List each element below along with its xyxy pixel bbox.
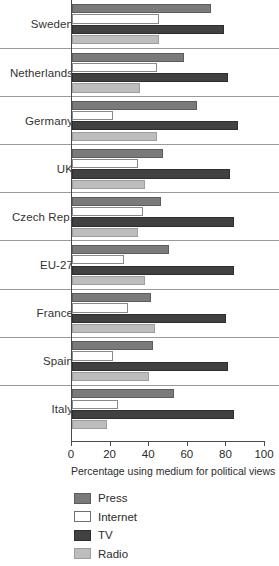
category-label: Spain [43,355,73,367]
bar-group [72,3,275,45]
bar-press [72,341,153,350]
x-tick-label: 40 [142,448,155,460]
bar-group [72,52,275,93]
bar-press [72,4,211,13]
legend-item[interactable]: Radio [74,545,264,564]
bar-internet [72,111,113,120]
bar-radio [72,372,149,381]
bar-press [72,197,161,206]
x-tick [71,441,72,446]
legend-swatch-icon [74,548,91,559]
bar-group [72,100,275,141]
bar-group [72,148,275,189]
bar-press [72,389,174,398]
category-label: Netherlands [10,67,73,79]
legend-item[interactable]: Internet [74,508,264,527]
bar-radio [72,132,157,141]
category-label: EU-27 [40,259,73,271]
bar-internet [72,351,113,360]
bar-group [72,244,275,285]
bar-tv [72,121,238,130]
bar-tv [72,25,224,34]
legend-label: Internet [98,511,137,523]
legend-item[interactable]: TV [74,526,264,545]
plot-area: SwedenNetherlandsGermanyUKCzech Rep.EU-2… [0,0,279,441]
bar-internet [72,303,128,312]
bar-press [72,101,197,110]
x-tick-label: 60 [180,448,193,460]
bar-group [72,293,275,334]
bar-press [72,293,151,302]
bar-press [72,245,169,254]
y-axis-line [71,0,72,441]
chart-group-row: EU-27 [0,240,279,288]
bar-tv [72,266,234,275]
bar-group [72,196,275,237]
chart-group-row: France [0,289,279,337]
chart-group-row: Italy [0,385,279,433]
x-tick [148,441,149,446]
category-label: France [37,307,73,319]
bar-tv [72,410,234,419]
bar-group [72,389,275,430]
bar-tv [72,362,228,371]
x-tick [225,441,226,446]
bar-internet [72,255,124,264]
bar-radio [72,420,107,429]
x-tick [264,441,265,446]
bar-internet [72,400,118,409]
legend-swatch-icon [74,530,91,541]
x-tick [187,441,188,446]
bar-group [72,341,275,382]
x-axis-title: Percentage using medium for political vi… [71,465,264,477]
legend-label: Press [98,492,127,504]
bar-internet [72,14,159,23]
bar-radio [72,83,140,92]
bar-radio [72,276,145,285]
chart-group-row: Czech Rep. [0,192,279,240]
chart-group-row: Germany [0,96,279,144]
chart-group-row: Netherlands [0,48,279,96]
category-label: Czech Rep. [12,211,73,223]
chart-group-row: Spain [0,337,279,385]
legend-swatch-icon [74,493,91,504]
legend-item[interactable]: Press [74,489,264,508]
chart-group-row: Sweden [0,0,279,48]
x-axis: 020406080100 Percentage using medium for… [0,441,279,481]
bar-radio [72,324,155,333]
category-label: Germany [25,115,73,127]
chart-legend: PressInternetTVRadio [74,489,264,563]
x-axis-line [71,441,264,442]
x-tick-label: 80 [219,448,232,460]
legend-label: Radio [98,548,128,560]
legend-label: TV [98,529,113,541]
political-media-usage-bar-chart: SwedenNetherlandsGermanyUKCzech Rep.EU-2… [0,0,279,566]
bar-tv [72,169,230,178]
bar-press [72,149,163,158]
category-label: Sweden [31,18,73,30]
x-tick [110,441,111,446]
x-tick-label: 0 [68,448,74,460]
chart-group-row: UK [0,144,279,192]
x-tick-label: 100 [254,448,273,460]
bar-press [72,53,184,62]
bar-internet [72,159,138,168]
legend-swatch-icon [74,511,91,522]
bar-internet [72,207,143,216]
bar-tv [72,314,226,323]
bar-radio [72,180,145,189]
bar-tv [72,217,234,226]
category-label: Italy [51,403,73,415]
bar-radio [72,228,138,237]
bar-radio [72,35,159,44]
bar-tv [72,73,228,82]
bar-internet [72,63,157,72]
x-tick-label: 20 [103,448,116,460]
